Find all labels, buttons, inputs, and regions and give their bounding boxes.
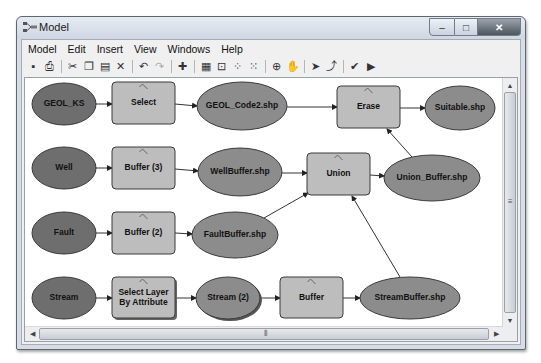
model-app-icon bbox=[23, 22, 37, 33]
connector-union-to-union_buffer[interactable] bbox=[370, 175, 384, 176]
node-suitable[interactable]: Suitable.shp bbox=[425, 86, 495, 130]
toolbar-separator bbox=[171, 60, 172, 73]
node-select-layer[interactable]: Select LayerBy Attribute bbox=[112, 277, 177, 320]
model-canvas[interactable]: GEOL_KSSelectGEOL_Code2.shpEraseSuitable… bbox=[24, 77, 518, 342]
full-extent-button[interactable]: ⊡ bbox=[214, 59, 229, 74]
delete-button[interactable]: ✕ bbox=[113, 59, 128, 74]
scroll-down-icon[interactable]: ▼ bbox=[504, 314, 516, 326]
toolbar-separator bbox=[265, 60, 266, 73]
node-union[interactable]: Union bbox=[307, 153, 370, 195]
validate-button[interactable]: ✔ bbox=[347, 59, 362, 74]
vertical-scroll-thumb[interactable]: ≡ bbox=[504, 92, 516, 313]
node-label: GEOL_Code2.shp bbox=[206, 100, 278, 110]
scroll-up-icon[interactable]: ▲ bbox=[504, 79, 516, 91]
connect-icon: ⤴ bbox=[326, 61, 337, 72]
horizontal-scroll-thumb[interactable]: ⦀ bbox=[39, 328, 489, 340]
redo-button[interactable]: ↷ bbox=[152, 59, 167, 74]
cut-icon: ✂ bbox=[68, 61, 77, 72]
menu-view[interactable]: View bbox=[134, 43, 157, 55]
copy-icon: ❐ bbox=[84, 61, 94, 72]
fixed-zoom-out-icon: ⁙ bbox=[249, 61, 258, 72]
node-label: WellBuffer.shp bbox=[210, 166, 269, 176]
node-erase[interactable]: Erase bbox=[337, 86, 400, 128]
node-geol-ks[interactable]: GEOL_KS bbox=[32, 83, 96, 125]
connector-buffer2-to-faultbuffer[interactable] bbox=[175, 233, 192, 234]
connect-button[interactable]: ⤴ bbox=[324, 59, 339, 74]
fixed-zoom-in-button[interactable]: ⁘ bbox=[230, 59, 245, 74]
node-wellbuffer[interactable]: WellBuffer.shp bbox=[198, 148, 282, 196]
fixed-zoom-in-icon: ⁘ bbox=[233, 61, 242, 72]
node-streambuffer[interactable]: StreamBuffer.shp bbox=[360, 277, 460, 319]
auto-layout-button[interactable]: ▦ bbox=[198, 59, 213, 74]
node-label: Erase bbox=[357, 101, 380, 111]
close-icon: ✕ bbox=[495, 22, 503, 33]
paste-button[interactable]: ▤ bbox=[97, 59, 112, 74]
vertical-scrollbar[interactable]: ▲ ≡ ▼ bbox=[502, 78, 517, 327]
delete-icon: ✕ bbox=[116, 61, 125, 72]
menu-windows[interactable]: Windows bbox=[168, 43, 211, 55]
node-label: FaultBuffer.shp bbox=[204, 229, 266, 239]
node-label: Select Layer bbox=[118, 287, 169, 297]
menu-insert[interactable]: Insert bbox=[97, 43, 123, 55]
add-data-button[interactable]: ✚ bbox=[175, 59, 190, 74]
node-stream[interactable]: Stream bbox=[32, 277, 96, 319]
node-label: Fault bbox=[54, 227, 74, 237]
node-label: Buffer bbox=[299, 292, 325, 302]
node-geol-code2[interactable]: GEOL_Code2.shp bbox=[197, 82, 287, 130]
grip-icon: ≡ bbox=[508, 197, 513, 206]
pan-icon: ✋ bbox=[286, 61, 300, 72]
maximize-icon: □ bbox=[463, 22, 469, 33]
undo-button[interactable]: ↶ bbox=[136, 59, 151, 74]
cut-button[interactable]: ✂ bbox=[65, 59, 80, 74]
node-faultbuffer[interactable]: FaultBuffer.shp bbox=[192, 212, 278, 258]
node-union-buffer[interactable]: Union_Buffer.shp bbox=[384, 155, 480, 201]
node-label: Well bbox=[55, 162, 72, 172]
node-well[interactable]: Well bbox=[32, 147, 96, 189]
scroll-left-icon[interactable]: ◀ bbox=[26, 328, 38, 340]
run-button[interactable]: ▶ bbox=[363, 59, 378, 74]
zoom-in-icon: ⊕ bbox=[272, 61, 281, 72]
node-fault[interactable]: Fault bbox=[32, 212, 96, 254]
toolbar-separator bbox=[132, 60, 133, 73]
run-icon: ▶ bbox=[367, 61, 375, 72]
menu-edit[interactable]: Edit bbox=[68, 43, 86, 55]
node-buffer3[interactable]: Buffer (3) bbox=[112, 147, 175, 189]
node-label: Stream bbox=[50, 292, 79, 302]
window-client: Model Edit Insert View Windows Help ▪ ⎙ … bbox=[21, 39, 521, 345]
pan-button[interactable]: ✋ bbox=[285, 59, 300, 74]
connector-streambuffer-to-union[interactable] bbox=[352, 196, 400, 277]
close-button[interactable]: ✕ bbox=[478, 18, 521, 36]
horizontal-scrollbar[interactable]: ◀ ⦀ ▶ bbox=[25, 326, 503, 341]
node-select[interactable]: Select bbox=[112, 82, 175, 124]
node-label: StreamBuffer.shp bbox=[375, 292, 446, 302]
node-label: Union_Buffer.shp bbox=[397, 172, 468, 182]
node-label: Stream (2) bbox=[207, 292, 249, 302]
save-button[interactable]: ▪ bbox=[26, 59, 41, 74]
menu-bar: Model Edit Insert View Windows Help bbox=[22, 40, 520, 57]
fixed-zoom-out-button[interactable]: ⁙ bbox=[246, 59, 261, 74]
minimize-icon: – bbox=[439, 22, 445, 33]
zoom-in-button[interactable]: ⊕ bbox=[269, 59, 284, 74]
connector-buffer3-to-wellbuffer[interactable] bbox=[175, 169, 198, 171]
auto-layout-icon: ▦ bbox=[201, 61, 211, 72]
connector-union_buffer-to-erase[interactable] bbox=[387, 129, 412, 157]
full-extent-icon: ⊡ bbox=[217, 61, 226, 72]
title-bar[interactable]: Model – □ ✕ bbox=[17, 17, 525, 39]
print-button[interactable]: ⎙ bbox=[42, 59, 57, 74]
node-label: Suitable.shp bbox=[435, 102, 486, 112]
connector-select-to-geol_code2[interactable] bbox=[175, 104, 197, 106]
scroll-right-icon[interactable]: ▶ bbox=[490, 328, 502, 340]
connector-faultbuffer-to-union[interactable] bbox=[264, 193, 308, 218]
node-buffer2[interactable]: Buffer (2) bbox=[112, 212, 175, 254]
model-diagram[interactable]: GEOL_KSSelectGEOL_Code2.shpEraseSuitable… bbox=[25, 78, 508, 335]
maximize-button[interactable]: □ bbox=[455, 18, 478, 36]
minimize-button[interactable]: – bbox=[429, 18, 455, 36]
node-buffer[interactable]: Buffer bbox=[280, 277, 343, 318]
select-pointer-button[interactable]: ➤ bbox=[308, 59, 323, 74]
scroll-corner bbox=[503, 327, 517, 341]
menu-help[interactable]: Help bbox=[221, 43, 243, 55]
node-stream2[interactable]: Stream (2) bbox=[196, 277, 262, 321]
copy-button[interactable]: ❐ bbox=[81, 59, 96, 74]
print-icon: ⎙ bbox=[45, 61, 54, 72]
menu-model[interactable]: Model bbox=[28, 43, 57, 55]
